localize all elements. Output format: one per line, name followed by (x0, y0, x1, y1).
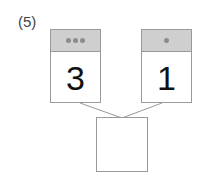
dot-icon (73, 38, 78, 43)
answer-box[interactable] (96, 117, 148, 172)
dots-header (51, 30, 100, 52)
number-card-right: 1 (141, 29, 192, 103)
card-number: 3 (51, 52, 100, 104)
dot-icon (164, 38, 169, 43)
dots-header (142, 30, 191, 52)
dot-icon (80, 38, 85, 43)
dot-icon (66, 38, 71, 43)
card-number: 1 (142, 52, 191, 104)
number-card-left: 3 (50, 29, 101, 103)
